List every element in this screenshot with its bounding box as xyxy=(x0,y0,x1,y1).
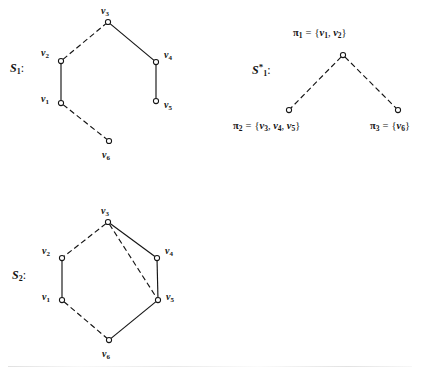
diagram-label-S1: S1: xyxy=(10,62,24,76)
edge-S1star-p1-p2 xyxy=(291,57,341,108)
vertex-label-S2-v3: v3 xyxy=(101,206,109,218)
vertex-S2-v2 xyxy=(59,255,64,260)
edge-S2-v1-v6 xyxy=(64,302,107,339)
page-scan-artifact xyxy=(8,366,412,367)
vertex-label-S1-v3: v3 xyxy=(101,6,109,18)
vertex-label-S1-v2: v2 xyxy=(41,48,49,60)
vertex-label-S2-v2: v2 xyxy=(42,246,50,258)
vertex-label-S1-v1: v1 xyxy=(41,94,49,106)
vertex-label-S1-v4: v4 xyxy=(164,50,172,62)
vertex-S1star-p1 xyxy=(340,52,345,57)
edge-S2-v6-v5 xyxy=(111,302,156,339)
vertex-S2-v6 xyxy=(106,337,111,342)
nodes-group xyxy=(58,19,400,342)
set-label-pi2: π2={v3, v4, v5} xyxy=(233,121,300,133)
edge-S2-v3-v5 xyxy=(109,224,156,298)
vertex-S2-v1 xyxy=(59,297,64,302)
edge-S2-v4-v5 xyxy=(157,261,158,298)
edge-S1star-p1-p3 xyxy=(345,57,396,108)
vertex-S2-v5 xyxy=(155,297,160,302)
set-label-pi3: π3={v6} xyxy=(370,121,410,133)
vertex-S1star-p3 xyxy=(395,107,400,112)
vertex-S2-v3 xyxy=(105,219,110,224)
vertex-S1star-p2 xyxy=(286,107,291,112)
vertex-label-S2-v4: v4 xyxy=(165,246,173,258)
vertex-label-S2-v6: v6 xyxy=(102,349,110,361)
edge-S2-v3-v4 xyxy=(110,224,155,257)
edge-S1-v3-v4 xyxy=(110,24,154,61)
edge-S1-v1-v6 xyxy=(63,105,107,140)
diagram-label-S2: S2: xyxy=(12,269,26,283)
vertex-S1-v3 xyxy=(105,19,110,24)
vertex-S1-v5 xyxy=(153,98,158,103)
graph-vector-layer xyxy=(0,0,433,371)
vertex-S1-v6 xyxy=(106,138,111,143)
figure-canvas: S1:v3v2v4v1v5v6S*1:π1={v1, v2}π2={v3, v4… xyxy=(0,0,433,371)
edge-S1-v2-v3 xyxy=(63,24,106,60)
set-label-pi1: π1={v1, v2} xyxy=(293,28,347,40)
vertex-S2-v4 xyxy=(154,255,159,260)
vertex-S1-v4 xyxy=(153,59,158,64)
vertex-label-S1-v5: v5 xyxy=(164,100,172,112)
vertex-label-S1-v6: v6 xyxy=(102,150,110,162)
vertex-S1-v1 xyxy=(58,100,63,105)
edge-S2-v3-v2 xyxy=(64,224,106,257)
vertex-S1-v2 xyxy=(58,58,63,63)
edges-group xyxy=(61,24,396,339)
vertex-label-S2-v1: v1 xyxy=(42,292,50,304)
vertex-label-S2-v5: v5 xyxy=(166,292,174,304)
diagram-label-S1star: S*1: xyxy=(252,63,271,78)
